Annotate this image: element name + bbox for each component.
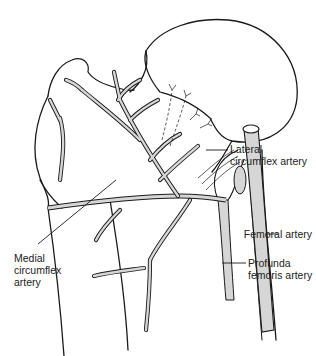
label-femoral-artery: Femoral artery xyxy=(244,228,312,240)
greater-trochanter xyxy=(48,59,134,96)
femoral-head xyxy=(145,20,297,143)
label-profunda-femoris-artery: Profunda femoris artery xyxy=(248,257,312,281)
label-lateral-circumflex-artery: Lateral circumflex artery xyxy=(230,143,307,167)
leader-medial-circumflex xyxy=(38,180,116,244)
profunda-femoris-artery xyxy=(218,200,234,300)
illustration xyxy=(0,0,316,356)
label-medial-circumflex-artery: Medial circumflex artery xyxy=(14,252,61,288)
hip-arterial-supply-diagram: Lateral circumflex artery Medial circumf… xyxy=(0,0,316,356)
